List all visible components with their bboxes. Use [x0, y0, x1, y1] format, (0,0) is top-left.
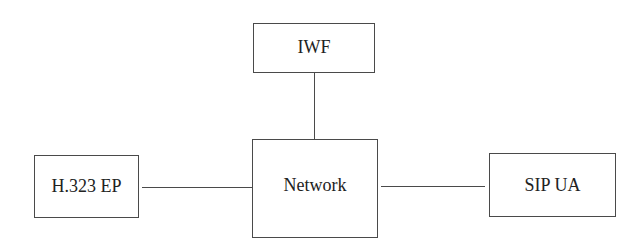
sip-ua-label: SIP UA: [490, 175, 615, 196]
network-node: Network: [252, 139, 378, 238]
iwf-network-connector: [314, 73, 315, 139]
iwf-label: IWF: [254, 37, 374, 58]
sip-ua-node: SIP UA: [489, 153, 616, 217]
h323-ep-label: H.323 EP: [35, 176, 138, 197]
diagram-canvas: IWF Network H.323 EP SIP UA: [0, 0, 638, 252]
iwf-node: IWF: [253, 23, 375, 73]
h323-network-connector: [142, 187, 252, 188]
h323-ep-node: H.323 EP: [34, 155, 139, 218]
network-label: Network: [253, 175, 377, 196]
network-sip-connector: [381, 186, 485, 187]
